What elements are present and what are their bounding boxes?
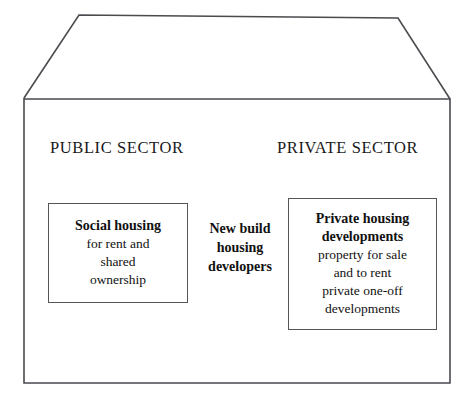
- private-housing-line-4: developments: [325, 300, 400, 318]
- social-housing-line-1: for rent and: [87, 235, 150, 253]
- social-housing-line-2: shared: [100, 253, 135, 271]
- new-build-line-2: housing: [217, 238, 264, 257]
- private-housing-line-3: private one-off: [322, 282, 402, 300]
- private-sector-label: PRIVATE SECTOR: [277, 138, 418, 158]
- new-build-developers-block: New build housing developers: [198, 216, 282, 278]
- diagram-canvas: PUBLIC SECTOR PRIVATE SECTOR Social hous…: [0, 0, 476, 403]
- public-sector-label: PUBLIC SECTOR: [50, 138, 184, 158]
- social-housing-line-3: ownership: [90, 271, 146, 289]
- social-housing-heading: Social housing: [75, 217, 161, 235]
- private-housing-line-2: and to rent: [334, 264, 392, 282]
- private-housing-line-1: property for sale: [318, 246, 407, 264]
- private-housing-heading-1: Private housing: [316, 210, 410, 228]
- new-build-line-1: New build: [209, 219, 270, 238]
- private-housing-box: Private housing developments property fo…: [288, 198, 437, 330]
- social-housing-box: Social housing for rent and shared owner…: [48, 203, 188, 303]
- private-housing-heading-2: developments: [322, 228, 404, 246]
- roof-outline: [24, 15, 450, 99]
- new-build-line-3: developers: [208, 257, 272, 276]
